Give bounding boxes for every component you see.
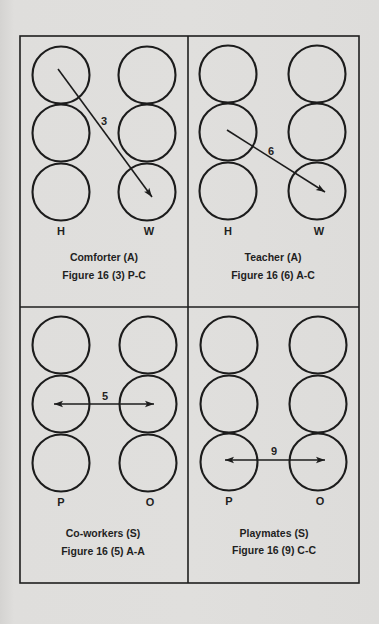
panel-title: Teacher (A) [245,251,302,263]
ego-state-circle-right-row-1 [120,317,177,374]
ego-state-circle-right-row-1 [119,47,176,104]
ego-state-circle-left-row-1 [200,46,257,103]
transaction-number-label: 5 [102,390,108,402]
ego-state-circle-right-row-1 [290,317,347,374]
panel-title: Comforter (A) [70,251,138,263]
panel-comforter: 3HWComforter (A)Figure 16 (3) P-C [33,47,176,282]
figure-caption: Figure 16 (3) P-C [62,269,146,281]
panel-playmates: 9POPlaymates (S)Figure 16 (9) C-C [201,317,347,557]
panel-title: Co-workers (S) [66,527,141,539]
transaction-number-label: 9 [271,445,277,457]
figure-caption: Figure 16 (9) C-C [232,544,316,556]
panel-co-workers: 5POCo-workers (S)Figure 16 (5) A-A [33,317,177,558]
ego-state-circle-left-row-1 [33,317,90,374]
figure-16-diagram: 3HWComforter (A)Figure 16 (3) P-C6HWTeac… [0,0,379,624]
left-column-label: H [224,225,232,237]
panel-teacher: 6HWTeacher (A)Figure 16 (6) A-C [200,46,346,282]
ego-state-circle-right-row-1 [289,46,346,103]
ego-state-circle-left-row-1 [201,317,258,374]
figure-caption: Figure 16 (6) A-C [231,269,315,281]
figure-frame [20,36,359,583]
right-column-label: W [144,225,155,237]
transaction-number-label: 6 [268,145,274,157]
outer-border [20,36,359,583]
ego-state-circle-right-row-2 [289,104,346,161]
panel-title: Playmates (S) [240,527,309,539]
transaction-number-label: 3 [101,115,107,127]
figure-panels: 3HWComforter (A)Figure 16 (3) P-C6HWTeac… [33,46,347,558]
transaction-arrow-line [58,69,152,197]
ego-state-circle-right-row-2 [290,376,347,433]
ego-state-circle-left-row-2 [201,376,258,433]
right-column-label: O [146,496,155,508]
ego-state-circle-right-row-2 [119,105,176,162]
page-background: 3HWComforter (A)Figure 16 (3) P-C6HWTeac… [0,0,379,624]
ego-state-circle-left-row-2 [200,104,257,161]
ego-state-circle-right-row-3 [120,435,177,492]
ego-state-circle-left-row-3 [33,164,90,221]
ego-state-circle-left-row-3 [33,435,90,492]
ego-state-circle-left-row-2 [33,105,90,162]
left-column-label: P [225,495,232,507]
left-column-label: H [57,225,65,237]
arrowhead-icon [316,184,327,194]
ego-state-circle-left-row-1 [33,47,90,104]
right-column-label: O [316,495,325,507]
ego-state-circle-left-row-3 [201,434,258,491]
left-column-label: P [57,496,64,508]
figure-caption: Figure 16 (5) A-A [61,545,145,557]
ego-state-circle-left-row-3 [200,163,257,220]
right-column-label: W [314,225,325,237]
ego-state-circle-right-row-3 [289,163,346,220]
transaction-arrow-line [227,130,325,192]
